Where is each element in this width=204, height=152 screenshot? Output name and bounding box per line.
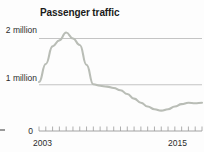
x-axis-tick-label-end: 2015 <box>168 138 187 148</box>
passenger-traffic-chart: Passenger traffic 2 million 1 million 0 … <box>0 0 204 152</box>
plot-area <box>39 20 202 132</box>
data-series-group <box>39 32 202 110</box>
y-axis-tick-label-1-million: 1 million <box>6 73 37 83</box>
y-axis-tick-label-zero: 0 <box>28 126 33 136</box>
plot-svg <box>39 20 202 132</box>
x-axis-tick-marks <box>39 127 202 132</box>
chart-title: Passenger traffic <box>40 7 119 18</box>
gridlines <box>39 39 202 85</box>
x-axis-tick-label-start: 2003 <box>33 138 52 148</box>
y-axis-labels: 2 million 1 million 0 <box>0 0 37 152</box>
y-axis-tick-label-2-million: 2 million <box>6 25 37 35</box>
data-line-0 <box>39 32 202 110</box>
edge-crop-artifact <box>0 129 5 131</box>
